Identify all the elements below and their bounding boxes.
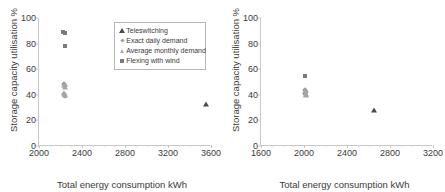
y-axis-label: Storage capacity utilisation % bbox=[8, 0, 22, 145]
x-axis-minor-tick bbox=[200, 145, 201, 147]
legend-diamond-icon bbox=[118, 39, 126, 42]
x-axis-tick-label: 2400 bbox=[72, 148, 92, 158]
y-axis-tick-label: 80 bbox=[248, 39, 258, 49]
x-axis-minor-tick bbox=[157, 145, 158, 147]
legend-item[interactable]: Flexing with wind bbox=[118, 56, 201, 66]
x-axis-minor-tick bbox=[412, 145, 413, 147]
y-axis-tick-mark bbox=[258, 18, 261, 19]
x-axis-tick-mark bbox=[168, 145, 169, 148]
x-axis-minor-tick bbox=[283, 145, 284, 147]
legend-triangle-icon bbox=[118, 28, 126, 33]
x-axis-minor-tick bbox=[369, 145, 370, 147]
x-axis-tick-mark bbox=[39, 145, 40, 148]
x-axis-tick-label: 2800 bbox=[380, 148, 400, 158]
x-axis-minor-tick bbox=[136, 145, 137, 147]
x-axis-minor-tick bbox=[379, 145, 380, 147]
data-point-triangle bbox=[371, 108, 377, 113]
x-axis-minor-tick bbox=[293, 145, 294, 147]
y-axis-label: Storage capacity utilisation % bbox=[230, 0, 244, 145]
data-point-square bbox=[63, 44, 67, 48]
x-axis-tick-mark bbox=[82, 145, 83, 148]
y-axis-tick-mark bbox=[258, 94, 261, 95]
chart-panel-right: Storage capacity utilisation % Total ene… bbox=[222, 0, 445, 192]
legend-item-label: Flexing with wind bbox=[126, 56, 179, 66]
y-axis-tick-mark bbox=[36, 94, 39, 95]
data-point-triangle bbox=[203, 102, 209, 107]
legend-triangle-light-icon bbox=[118, 49, 126, 53]
x-axis-minor-tick bbox=[358, 145, 359, 147]
x-axis-tick-mark bbox=[125, 145, 126, 148]
y-axis-tick-label: 20 bbox=[26, 115, 36, 125]
chart-panel-left: Storage capacity utilisation % Total ene… bbox=[0, 0, 222, 192]
legend-item-label: Teleswitching bbox=[126, 26, 168, 36]
x-axis-tick-label: 3600 bbox=[201, 148, 221, 158]
x-axis-tick-label: 2800 bbox=[115, 148, 135, 158]
x-axis-tick-mark bbox=[304, 145, 305, 148]
y-axis-tick-mark bbox=[36, 69, 39, 70]
scatter-chart-figure: Storage capacity utilisation % Total ene… bbox=[0, 0, 445, 192]
x-axis-label: Total energy consumption kWh bbox=[222, 179, 445, 190]
y-axis-tick-label: 80 bbox=[26, 39, 36, 49]
x-axis-tick-label: 1600 bbox=[251, 148, 271, 158]
data-point-triangle-light bbox=[62, 84, 68, 89]
x-axis-minor-tick bbox=[401, 145, 402, 147]
x-axis-tick-label: 3200 bbox=[423, 148, 443, 158]
y-axis-tick-label: 100 bbox=[21, 13, 36, 23]
y-axis-tick-label: 60 bbox=[26, 64, 36, 74]
y-axis-tick-mark bbox=[36, 120, 39, 121]
y-axis-tick-mark bbox=[258, 69, 261, 70]
x-axis-minor-tick bbox=[315, 145, 316, 147]
x-axis-tick-mark bbox=[211, 145, 212, 148]
x-axis-minor-tick bbox=[336, 145, 337, 147]
x-axis-minor-tick bbox=[61, 145, 62, 147]
x-axis-minor-tick bbox=[50, 145, 51, 147]
y-axis-tick-label: 60 bbox=[248, 64, 258, 74]
y-axis-tick-label: 40 bbox=[248, 90, 258, 100]
data-point-square bbox=[303, 74, 307, 78]
y-axis-tick-mark bbox=[258, 43, 261, 44]
plot-area-right: 02040608010016002000240028003200 bbox=[260, 18, 432, 146]
legend-square-icon bbox=[118, 59, 126, 63]
legend-item-label: Exact daily demand bbox=[126, 36, 187, 46]
x-axis-label: Total energy consumption kWh bbox=[0, 179, 222, 190]
y-axis-tick-label: 100 bbox=[243, 13, 258, 23]
y-axis-tick-label: 20 bbox=[248, 115, 258, 125]
x-axis-minor-tick bbox=[190, 145, 191, 147]
x-axis-minor-tick bbox=[114, 145, 115, 147]
x-axis-tick-mark bbox=[261, 145, 262, 148]
data-point-square bbox=[63, 31, 67, 35]
x-axis-minor-tick bbox=[93, 145, 94, 147]
x-axis-minor-tick bbox=[147, 145, 148, 147]
legend-item-label: Average monthly demand bbox=[126, 46, 206, 56]
x-axis-minor-tick bbox=[104, 145, 105, 147]
y-axis-tick-label: 40 bbox=[26, 90, 36, 100]
y-axis-tick-mark bbox=[258, 120, 261, 121]
legend-item[interactable]: Exact daily demand bbox=[118, 36, 201, 46]
x-axis-tick-label: 2000 bbox=[29, 148, 49, 158]
x-axis-minor-tick bbox=[272, 145, 273, 147]
plot-area-left: 02040608010020002400280032003600Teleswit… bbox=[38, 18, 210, 146]
x-axis-minor-tick bbox=[179, 145, 180, 147]
x-axis-tick-mark bbox=[390, 145, 391, 148]
x-axis-tick-label: 3200 bbox=[158, 148, 178, 158]
y-axis-tick-mark bbox=[36, 18, 39, 19]
x-axis-minor-tick bbox=[71, 145, 72, 147]
x-axis-minor-tick bbox=[326, 145, 327, 147]
x-axis-tick-mark bbox=[433, 145, 434, 148]
legend-item[interactable]: Average monthly demand bbox=[118, 46, 201, 56]
x-axis-tick-label: 2400 bbox=[337, 148, 357, 158]
legend-item[interactable]: Teleswitching bbox=[118, 26, 201, 36]
x-axis-tick-mark bbox=[347, 145, 348, 148]
chart-legend: TeleswitchingExact daily demandAverage m… bbox=[114, 22, 206, 70]
y-axis-tick-mark bbox=[36, 43, 39, 44]
data-point-triangle-light bbox=[62, 93, 68, 98]
data-point-triangle-light bbox=[303, 93, 309, 98]
x-axis-tick-label: 2000 bbox=[294, 148, 314, 158]
x-axis-minor-tick bbox=[422, 145, 423, 147]
